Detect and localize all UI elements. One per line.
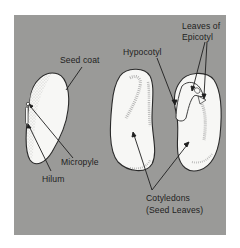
label-leaves-of: Leaves of xyxy=(182,22,220,31)
label-hilum: Hilum xyxy=(42,175,64,184)
label-epicotyl: Epicotyl xyxy=(182,33,213,42)
whole-seed xyxy=(26,73,69,164)
label-cotyledons: Cotyledons xyxy=(146,194,190,203)
label-seed-leaves: (Seed Leaves) xyxy=(146,206,203,215)
left-cotyledon xyxy=(110,69,154,170)
right-cotyledon xyxy=(174,73,221,171)
label-micropyle: Micropyle xyxy=(61,158,99,167)
hilum-mark xyxy=(26,107,29,124)
label-hypocotyl: Hypocotyl xyxy=(123,48,162,57)
label-seed-coat: Seed coat xyxy=(60,56,100,65)
